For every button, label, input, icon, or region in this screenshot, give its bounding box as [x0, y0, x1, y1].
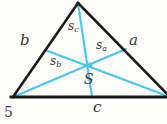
geometry-figure: b a c sc sa sb S 5 [0, 0, 167, 124]
figure-number: 5 [4, 105, 13, 119]
side-label-c: c [93, 100, 101, 115]
centroid-label: S [84, 72, 94, 86]
triangle-diagram-svg [0, 0, 167, 124]
median-label-sb: sb [50, 55, 61, 67]
side-label-b: b [20, 33, 30, 48]
median-label-sb-subscript: b [56, 60, 61, 69]
side-label-a: a [129, 33, 138, 48]
median-label-sa-subscript: a [102, 44, 107, 53]
median-label-sa: sa [96, 39, 107, 51]
median-label-sc: sc [68, 20, 79, 32]
centroid-point [87, 62, 92, 67]
median-label-sc-subscript: c [74, 25, 78, 34]
